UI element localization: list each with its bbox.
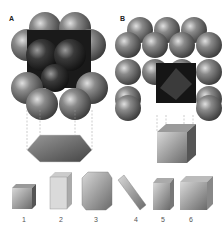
crystal-system-1 [12,184,36,209]
panel-label-a: A [9,15,14,22]
crystal-system-6 [180,176,213,210]
crystal-system-5 [153,178,174,210]
crystal-number-3: 3 [94,216,98,223]
cube-unit-cell [157,124,196,163]
crystal-number-6: 6 [189,216,193,223]
crystal-lattice-diagram [0,0,224,235]
crystal-number-4: 4 [134,216,138,223]
crystal-system-3 [82,172,112,210]
hexagonal-prism [27,135,92,162]
crystal-number-2: 2 [59,216,63,223]
crystal-number-1: 1 [22,216,26,223]
crystal-system-2 [50,172,72,209]
crystal-system-4 [118,175,146,210]
panel-label-b: B [120,15,125,22]
panel-a-spheres [11,12,108,120]
panel-b-spheres [115,17,222,121]
crystal-number-5: 5 [161,216,165,223]
